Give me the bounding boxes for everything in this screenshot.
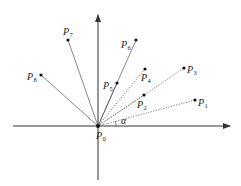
angle-alpha-label: α bbox=[121, 115, 127, 126]
vector-diagram: α P1P2P3P4P5P6P7P8 P0 bbox=[0, 0, 241, 186]
point-p8 bbox=[39, 73, 42, 76]
label-p2: P2 bbox=[136, 99, 147, 111]
point-p7 bbox=[66, 38, 69, 41]
point-p5 bbox=[115, 81, 118, 84]
label-p7: P7 bbox=[62, 26, 74, 38]
label-p3: P3 bbox=[186, 64, 197, 76]
label-p8: P8 bbox=[26, 71, 37, 83]
point-p4 bbox=[143, 67, 146, 70]
point-p3 bbox=[182, 66, 185, 69]
origin-point bbox=[96, 124, 100, 128]
points-group: P1P2P3P4P5P6P7P8 bbox=[26, 26, 208, 111]
point-p6 bbox=[134, 38, 137, 41]
label-p6: P6 bbox=[120, 39, 132, 51]
label-p1: P1 bbox=[197, 97, 208, 109]
angle-arc bbox=[115, 121, 116, 126]
diagram-canvas: α P1P2P3P4P5P6P7P8 P0 bbox=[0, 0, 241, 186]
label-p5: P5 bbox=[102, 80, 113, 92]
label-p4: P4 bbox=[140, 72, 152, 84]
origin-label: P0 bbox=[95, 130, 106, 142]
ray-p7 bbox=[68, 40, 98, 126]
point-p2 bbox=[142, 93, 145, 96]
point-p1 bbox=[193, 98, 196, 101]
